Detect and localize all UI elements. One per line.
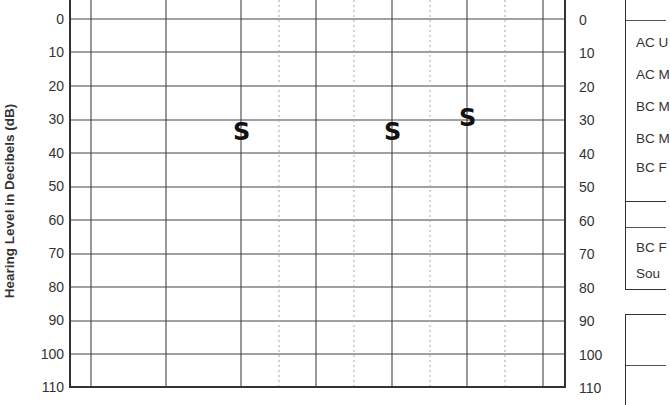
y-tick-right: 10 [579, 45, 619, 61]
legend-box-bottom [625, 314, 666, 405]
legend-box-ac-bc: AC U AC M BC M BC M BC F [625, 0, 666, 219]
y-tick-right: 50 [579, 179, 619, 195]
legend-row: AC U [636, 35, 668, 50]
legend-row: AC M [636, 67, 670, 82]
y-tick-right: 110 [579, 380, 619, 396]
sound-field-marker: S [233, 118, 250, 146]
sound-field-marker: S [384, 118, 401, 146]
legend-row: Sou [636, 266, 660, 281]
sound-field-marker: S [459, 104, 476, 132]
y-tick-right: 40 [579, 146, 619, 162]
legend-header-divider [626, 20, 666, 21]
legend-header-divider [626, 227, 666, 228]
legend-box-bc-sound: BC F Sou [625, 201, 666, 290]
legend-row: BC F [636, 160, 667, 175]
y-tick-right: 30 [579, 112, 619, 128]
y-tick-right: 80 [579, 280, 619, 296]
y-tick-right: 20 [579, 79, 619, 95]
legend-row: BC M [636, 131, 670, 146]
legend-header-divider [626, 365, 666, 366]
y-tick-right: 0 [579, 12, 619, 28]
y-tick-right: 90 [579, 313, 619, 329]
y-tick-right: 60 [579, 213, 619, 229]
legend-row: BC F [636, 240, 667, 255]
y-tick-right: 70 [579, 246, 619, 262]
legend-row: BC M [636, 99, 670, 114]
y-tick-right: 100 [579, 347, 619, 363]
